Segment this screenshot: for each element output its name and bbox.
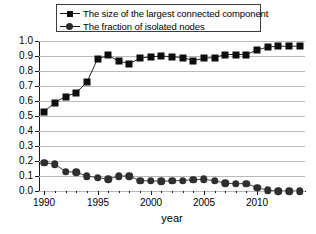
x-tick-label: 1990 <box>33 197 55 208</box>
data-point <box>275 187 283 195</box>
plot-area: 0.00.10.20.30.40.50.60.70.80.91.0 199019… <box>39 41 305 191</box>
data-point <box>296 43 303 50</box>
legend-item-largest-connected-component: The size of the largest connected compon… <box>60 7 257 19</box>
data-point <box>253 184 261 192</box>
data-point <box>51 161 59 169</box>
x-tick-minor <box>183 191 184 193</box>
y-tick-label: 0.6 <box>19 96 33 106</box>
x-tick-major <box>151 191 152 195</box>
data-point <box>179 177 187 185</box>
data-point <box>51 99 58 106</box>
x-tick-minor <box>129 191 130 193</box>
y-tick-label: 0.5 <box>19 111 33 121</box>
x-tick-minor <box>66 191 67 193</box>
data-point <box>286 43 293 50</box>
data-point <box>254 47 261 54</box>
data-point <box>285 187 293 195</box>
x-tick-minor <box>87 191 88 193</box>
x-tick-label: 2010 <box>246 197 268 208</box>
x-tick-major <box>98 191 99 195</box>
x-tick-minor <box>172 191 173 193</box>
y-tick-label: 0.0 <box>19 186 33 196</box>
y-tick-label: 0.9 <box>19 51 33 61</box>
data-point <box>264 187 272 195</box>
x-tick-minor <box>55 191 56 193</box>
x-axis-title: year <box>39 212 305 224</box>
data-series-layer <box>39 41 305 191</box>
x-tick-label: 1995 <box>87 197 109 208</box>
data-point <box>211 54 218 61</box>
data-point <box>94 56 101 63</box>
data-point <box>136 177 144 185</box>
x-tick-minor <box>161 191 162 193</box>
data-point <box>62 168 70 176</box>
legend-item-isolated-nodes: The fraction of isolated nodes <box>60 20 257 32</box>
x-tick-major <box>44 191 45 195</box>
legend-item-label: The size of the largest connected compon… <box>80 8 268 19</box>
data-point <box>147 177 155 185</box>
y-tick-label: 0.2 <box>19 156 33 166</box>
data-point <box>72 169 80 177</box>
legend-item-label: The fraction of isolated nodes <box>80 21 205 32</box>
x-tick-minor <box>108 191 109 193</box>
data-point <box>211 177 219 185</box>
data-point <box>105 52 112 59</box>
data-point <box>221 179 229 187</box>
x-tick-label: 2000 <box>140 197 162 208</box>
legend-square-marker-icon <box>60 8 80 19</box>
data-point <box>264 44 271 51</box>
data-point <box>168 177 176 185</box>
x-tick-label: 2005 <box>193 197 215 208</box>
y-tick-label: 0.1 <box>19 171 33 181</box>
chart-figure: The size of the largest connected compon… <box>0 0 316 234</box>
x-tick-minor <box>215 191 216 193</box>
data-point <box>158 178 166 186</box>
data-point <box>94 174 102 182</box>
x-tick-minor <box>140 191 141 193</box>
data-point <box>83 172 91 180</box>
data-point <box>41 159 49 167</box>
x-tick-major <box>204 191 205 195</box>
data-point <box>41 108 48 115</box>
data-point <box>275 43 282 50</box>
data-point <box>243 51 250 58</box>
data-point <box>179 54 186 61</box>
data-point <box>104 176 112 184</box>
data-point <box>296 187 304 195</box>
data-point <box>190 176 198 184</box>
data-point <box>200 176 208 184</box>
data-point <box>115 172 123 180</box>
y-tick-label: 0.3 <box>19 141 33 151</box>
data-point <box>190 57 197 64</box>
data-point <box>158 53 165 60</box>
data-point <box>83 79 90 86</box>
y-tick-label: 0.7 <box>19 81 33 91</box>
x-tick-minor <box>236 191 237 193</box>
x-tick-minor <box>225 191 226 193</box>
data-point <box>126 172 134 180</box>
legend-circle-marker-icon <box>60 21 80 32</box>
data-point <box>147 53 154 60</box>
data-point <box>243 180 251 188</box>
data-point <box>200 55 207 62</box>
data-point <box>62 93 69 100</box>
data-point <box>232 180 240 188</box>
data-point <box>126 60 133 67</box>
data-point <box>169 53 176 60</box>
y-tick <box>35 191 39 192</box>
x-tick-major <box>257 191 258 195</box>
data-point <box>222 51 229 58</box>
x-tick-minor <box>76 191 77 193</box>
y-tick-label: 0.4 <box>19 126 33 136</box>
data-point <box>73 89 80 96</box>
data-point <box>115 58 122 65</box>
x-tick-minor <box>246 191 247 193</box>
x-tick-minor <box>193 191 194 193</box>
y-tick-label: 1.0 <box>19 36 33 46</box>
data-point <box>137 55 144 62</box>
y-tick-label: 0.8 <box>19 66 33 76</box>
data-point <box>232 51 239 58</box>
x-tick-minor <box>119 191 120 193</box>
chart-legend: The size of the largest connected compon… <box>56 4 261 32</box>
